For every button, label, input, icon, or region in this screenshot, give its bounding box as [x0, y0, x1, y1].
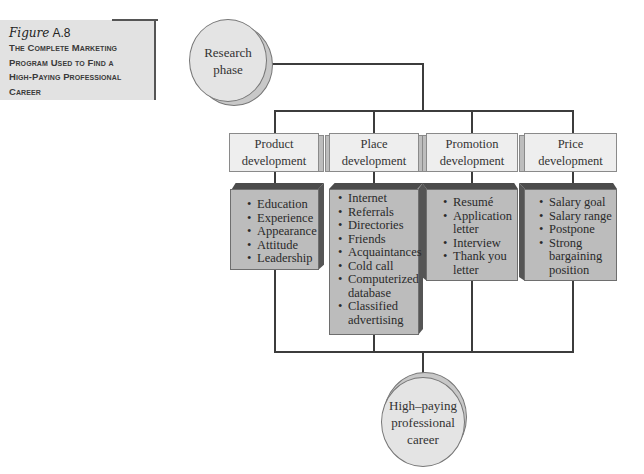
product-body: Education Experience Appearance Attitude…	[230, 189, 319, 270]
figure-title-line: Career	[9, 85, 154, 100]
list-item: Education	[247, 198, 319, 212]
connector-drop-place	[373, 110, 375, 134]
career-label: professional	[389, 414, 457, 431]
promotion-header-line: Promotion	[440, 136, 505, 153]
figure-word: Figure	[9, 26, 49, 40]
list-item: Thank you letter	[443, 250, 519, 277]
connector-drop-product	[274, 110, 276, 134]
career-label: High–paying	[389, 397, 457, 414]
list-item: Classified advertising	[338, 300, 420, 327]
figure-caption: FigureA.8 The Complete Marketing Program…	[0, 20, 156, 100]
list-item: Application letter	[443, 210, 519, 237]
list-item: Internet	[338, 192, 420, 206]
connector-header-body-product	[274, 172, 276, 184]
place-development-header: Placedevelopment	[329, 133, 419, 172]
price-header-line: development	[538, 153, 603, 170]
connector-header-body-promotion	[471, 172, 473, 184]
price-development-header: Pricedevelopment	[524, 133, 617, 172]
connector-header-body-price	[572, 172, 574, 184]
list-item: Salary goal	[539, 196, 617, 210]
connector-header-body-place	[373, 172, 375, 184]
product-items-list: Education Experience Appearance Attitude…	[247, 198, 319, 266]
career-node: High–paying professional career	[381, 377, 465, 467]
promotion-items-list: Resumé Application letter Interview Than…	[443, 196, 519, 277]
list-item: Cold call	[338, 260, 420, 274]
research-phase-label: Research	[204, 44, 252, 61]
list-item: Appearance	[247, 225, 319, 239]
connector-drop-price	[572, 110, 574, 134]
connector-research-vertical	[422, 63, 424, 112]
list-item: Leadership	[247, 252, 319, 266]
product-header-line: Product	[242, 136, 307, 153]
figure-number: A.8	[52, 26, 70, 40]
connector-top-bus	[274, 110, 574, 112]
connector-rise-product	[274, 270, 276, 353]
list-item: Experience	[247, 212, 319, 226]
figure-title: The Complete Marketing Program Used to F…	[9, 41, 154, 99]
list-item: Referrals	[338, 206, 420, 220]
figure-label: FigureA.8	[9, 26, 70, 41]
connector-rise-promotion	[471, 281, 473, 353]
connector-rise-price	[572, 281, 574, 353]
figure-title-line: High-Paying Professional	[9, 70, 154, 85]
list-item: Resumé	[443, 196, 519, 210]
connector-bottom-bus	[274, 351, 574, 353]
research-phase-node: Research phase	[189, 19, 267, 102]
list-item: Friends	[338, 233, 420, 247]
list-item: Directories	[338, 219, 420, 233]
product-header-line: development	[242, 153, 307, 170]
list-item: Acquaintances	[338, 246, 420, 260]
figure-title-line: The Complete Marketing	[9, 41, 154, 56]
promotion-header-line: development	[440, 153, 505, 170]
place-body: Internet Referrals Directories Friends A…	[329, 189, 419, 335]
price-items-list: Salary goal Salary range Postpone Strong…	[539, 196, 617, 277]
figure-title-line: Program Used to Find a	[9, 56, 154, 71]
list-item: Computerized database	[338, 273, 420, 300]
promotion-body: Resumé Application letter Interview Than…	[426, 189, 518, 281]
promotion-development-header: Promotiondevelopment	[426, 133, 518, 172]
price-body: Salary goal Salary range Postpone Strong…	[524, 189, 617, 281]
connector-drop-promotion	[471, 110, 473, 134]
product-development-header: Productdevelopment	[229, 133, 319, 172]
list-item: Postpone	[539, 223, 617, 237]
caption-border-top	[112, 19, 158, 21]
list-item: Interview	[443, 237, 519, 251]
price-header-line: Price	[538, 136, 603, 153]
place-header-line: development	[342, 153, 407, 170]
list-item: Attitude	[247, 239, 319, 253]
connector-research-horizontal	[268, 63, 424, 65]
place-items-list: Internet Referrals Directories Friends A…	[338, 192, 420, 327]
career-label: career	[389, 431, 457, 448]
list-item: Strong bargaining position	[539, 237, 617, 278]
research-phase-label: phase	[204, 61, 252, 78]
list-item: Salary range	[539, 210, 617, 224]
place-header-line: Place	[342, 136, 407, 153]
